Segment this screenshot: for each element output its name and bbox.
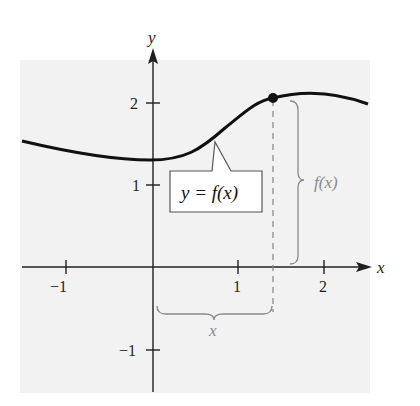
fx-brace-label: f(x) — [314, 173, 338, 192]
graph-panel — [20, 60, 370, 393]
y-tick-label-2: 2 — [130, 95, 138, 112]
x-axis-label: x — [376, 258, 385, 277]
callout-label: y = f(x) — [179, 182, 238, 204]
x-tick-label-2: 2 — [319, 278, 327, 295]
function-graph: y x −1 1 2 2 1 −1 f(x) x y = f(x) — [0, 0, 420, 406]
x-tick-label-neg1: −1 — [50, 278, 67, 295]
y-axis-label: y — [146, 28, 156, 47]
x-tick-label-1: 1 — [233, 278, 241, 295]
y-tick-label-neg1: −1 — [119, 342, 136, 359]
point-marker — [268, 93, 278, 103]
x-brace-label: x — [208, 321, 217, 340]
y-tick-label-1: 1 — [132, 177, 140, 194]
